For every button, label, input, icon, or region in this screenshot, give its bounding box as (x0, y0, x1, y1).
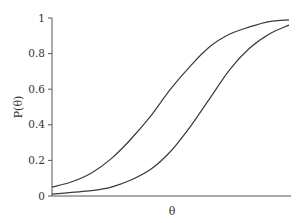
y-tick-label: 0.2 (28, 154, 45, 166)
y-axis-label: P(θ) (12, 96, 25, 119)
y-tick-label: 0.6 (28, 83, 45, 95)
x-axis-label: θ (169, 205, 176, 218)
y-tick-label: 0.4 (28, 118, 45, 130)
plot-area (52, 20, 289, 194)
y-tick-label: 0.8 (28, 47, 45, 59)
y-tick-label: 1 (38, 12, 45, 24)
y-tick-label: 0 (38, 190, 45, 202)
series-line-2 (52, 25, 289, 194)
y-axis-ticks: 00.20.40.60.81 (28, 12, 52, 202)
chart-canvas: 00.20.40.60.81 θ P(θ) (0, 0, 305, 223)
